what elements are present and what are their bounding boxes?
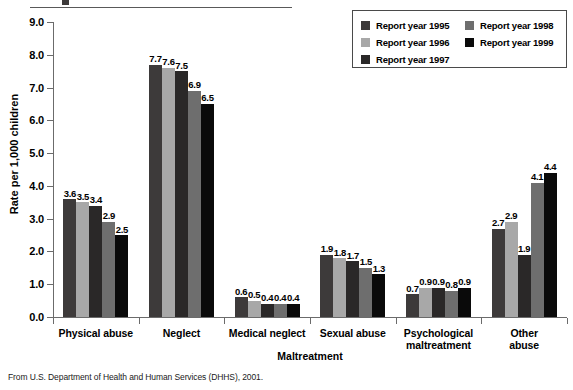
bar-item[interactable]: 7.7 — [149, 22, 162, 317]
legend-column-right: Report year 1998Report year 1999 — [465, 18, 553, 52]
bar-item[interactable]: 0.5 — [248, 22, 261, 317]
bar-value-label: 0.9 — [419, 277, 431, 287]
bar-group: 3.63.53.42.92.5 — [53, 22, 139, 317]
bar-value-label: 0.4 — [287, 293, 299, 303]
bar[interactable] — [458, 288, 471, 318]
bar[interactable] — [359, 268, 372, 317]
bar-item[interactable]: 7.6 — [162, 22, 175, 317]
bar[interactable] — [432, 288, 445, 318]
y-axis-tick-label: 9.0 — [2, 17, 44, 28]
bar-value-label: 7.6 — [162, 57, 174, 67]
x-axis-tick — [224, 318, 225, 324]
legend: Report year 1995Report year 1996Report y… — [352, 10, 567, 68]
bar-value-label: 6.9 — [188, 80, 200, 90]
bar[interactable] — [162, 68, 175, 317]
legend-item[interactable]: Report year 1999 — [465, 35, 553, 50]
bar-value-label: 2.9 — [505, 211, 517, 221]
x-axis-category-label: Neglect — [139, 327, 225, 339]
bar-item[interactable]: 2.5 — [115, 22, 128, 317]
bar-item[interactable]: 6.9 — [188, 22, 201, 317]
bar-item[interactable]: 3.5 — [76, 22, 89, 317]
bar[interactable] — [346, 261, 359, 317]
bar-item[interactable]: 6.5 — [201, 22, 214, 317]
legend-label: Report year 1995 — [376, 20, 449, 31]
bar-value-label: 1.5 — [360, 257, 372, 267]
x-axis-category-label: Otherabuse — [481, 327, 567, 351]
x-axis-category-label: Medical neglect — [224, 327, 310, 339]
x-axis-tick — [139, 318, 140, 324]
bar[interactable] — [63, 199, 76, 317]
bar[interactable] — [445, 291, 458, 317]
bar[interactable] — [115, 235, 128, 317]
x-axis-category-label-line: Neglect — [139, 327, 225, 339]
bar-group: 0.60.50.40.40.4 — [224, 22, 310, 317]
bar[interactable] — [274, 304, 287, 317]
y-axis-tick-label: 0.0 — [2, 312, 44, 323]
bar-item[interactable]: 7.5 — [175, 22, 188, 317]
bar-chart-figure: 0.01.02.03.04.05.06.07.08.09.0 Rate per … — [0, 0, 573, 390]
legend-swatch-icon — [465, 38, 474, 47]
bar[interactable] — [320, 255, 333, 317]
bar[interactable] — [406, 294, 419, 317]
bar[interactable] — [492, 229, 505, 318]
legend-item[interactable]: Report year 1997 — [361, 52, 449, 67]
x-axis-category-label: Psychologicalmaltreatment — [396, 327, 482, 351]
bar[interactable] — [149, 65, 162, 317]
bar-value-label: 2.9 — [103, 211, 115, 221]
bar-value-label: 2.5 — [116, 225, 128, 235]
y-axis-title: Rate per 1,000 children — [8, 54, 20, 254]
bar-item[interactable]: 3.4 — [89, 22, 102, 317]
bar[interactable] — [76, 202, 89, 317]
legend-item[interactable]: Report year 1998 — [465, 18, 553, 33]
bar[interactable] — [518, 255, 531, 317]
bar-group-bars: 7.77.67.56.96.5 — [139, 22, 225, 317]
bar-value-label: 0.4 — [274, 293, 286, 303]
bar[interactable] — [287, 304, 300, 317]
bar-item[interactable]: 1.9 — [320, 22, 333, 317]
bar-value-label: 1.9 — [321, 244, 333, 254]
bar-item[interactable]: 3.6 — [63, 22, 76, 317]
bar[interactable] — [201, 104, 214, 317]
bar[interactable] — [261, 304, 274, 317]
bar[interactable] — [372, 274, 385, 317]
bar[interactable] — [333, 258, 346, 317]
bar[interactable] — [89, 206, 102, 317]
legend-label: Report year 1997 — [376, 54, 449, 65]
bar[interactable] — [544, 173, 557, 317]
bar-group-bars: 0.60.50.40.40.4 — [224, 22, 310, 317]
bar-value-label: 1.3 — [373, 264, 385, 274]
legend-swatch-icon — [361, 55, 370, 64]
x-axis-title: Maltreatment — [53, 350, 567, 362]
bar[interactable] — [235, 297, 248, 317]
bar-value-label: 4.1 — [531, 172, 543, 182]
bar-value-label: 0.9 — [432, 277, 444, 287]
bar-item[interactable]: 0.6 — [235, 22, 248, 317]
x-axis-category-label: Sexual abuse — [310, 327, 396, 339]
bar-item[interactable]: 0.4 — [287, 22, 300, 317]
bar-group: 7.77.67.56.96.5 — [139, 22, 225, 317]
bar[interactable] — [419, 288, 432, 318]
x-axis-tick — [567, 318, 568, 324]
bar[interactable] — [531, 183, 544, 317]
bar-value-label: 0.6 — [235, 287, 247, 297]
bar-value-label: 0.7 — [406, 284, 418, 294]
bar[interactable] — [188, 91, 201, 317]
bar[interactable] — [248, 301, 261, 317]
bar[interactable] — [175, 71, 188, 317]
bar-item[interactable]: 0.4 — [274, 22, 287, 317]
bar-value-label: 0.5 — [248, 290, 260, 300]
bar-item[interactable]: 0.4 — [261, 22, 274, 317]
x-axis-category-label-line: Medical neglect — [224, 327, 310, 339]
bar-item[interactable]: 2.9 — [102, 22, 115, 317]
x-axis-category-label-line: Psychological — [396, 327, 482, 339]
bar[interactable] — [505, 222, 518, 317]
bar-value-label: 0.8 — [445, 280, 457, 290]
legend-swatch-icon — [361, 21, 370, 30]
legend-item[interactable]: Report year 1995 — [361, 18, 449, 33]
bar-value-label: 2.7 — [492, 218, 504, 228]
bar-value-label: 1.9 — [518, 244, 530, 254]
bar[interactable] — [102, 222, 115, 317]
bar-item[interactable]: 1.8 — [333, 22, 346, 317]
bar-value-label: 3.4 — [90, 195, 102, 205]
legend-item[interactable]: Report year 1996 — [361, 35, 449, 50]
